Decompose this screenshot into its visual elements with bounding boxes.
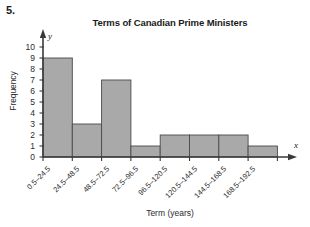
y-axis-tick-label: 6 xyxy=(21,87,35,95)
y-axis-tick-label: 9 xyxy=(21,54,35,62)
histogram-plot: 012345678910 0.5–24.524.5–48.548.5–72.57… xyxy=(0,0,310,227)
histogram-bar xyxy=(160,135,189,157)
y-axis-tick-label: 2 xyxy=(21,131,35,139)
y-axis-tick-label: 10 xyxy=(21,43,35,51)
x-axis-letter: x xyxy=(294,140,298,150)
y-axis-tick-label: 5 xyxy=(21,98,35,106)
y-axis-letter: y xyxy=(48,31,52,41)
y-axis-tick-label: 1 xyxy=(21,142,35,150)
y-axis-tick-label: 4 xyxy=(21,109,35,117)
y-axis-tick-label: 3 xyxy=(21,120,35,128)
histogram-bar xyxy=(219,135,248,157)
histogram-bar xyxy=(131,146,160,157)
y-axis-title: Frequency xyxy=(8,61,18,121)
x-axis-arrowhead xyxy=(288,154,297,160)
histogram-bar xyxy=(43,58,72,157)
histogram-bar xyxy=(190,135,219,157)
y-axis-arrowhead xyxy=(40,29,46,38)
histogram-bar xyxy=(102,80,131,157)
y-axis-tick-label: 0 xyxy=(21,153,35,161)
y-axis-tick-label: 7 xyxy=(21,76,35,84)
histogram-bar xyxy=(72,124,101,157)
x-axis-title: Term (years) xyxy=(95,208,245,218)
bars-group xyxy=(43,58,277,157)
y-axis-tick-label: 8 xyxy=(21,65,35,73)
histogram-bar xyxy=(248,146,277,157)
